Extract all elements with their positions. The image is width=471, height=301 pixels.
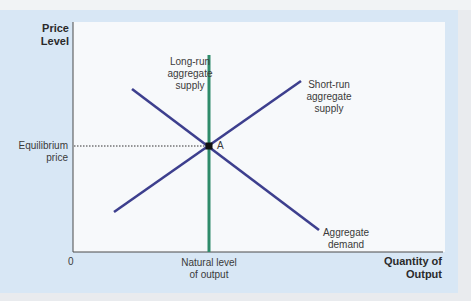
natural-output-label: Natural level of output: [174, 257, 244, 281]
equilibrium-point: [206, 143, 213, 150]
sras-label: Short-run aggregate supply: [302, 79, 356, 115]
lras-label: Long-run aggregate supply: [160, 56, 220, 92]
x-axis-title: Quantity of Output: [360, 255, 442, 281]
point-a-label: A: [217, 140, 224, 152]
ad-line: [132, 89, 319, 230]
ad-label: Aggregate demand: [316, 227, 376, 251]
y-axis-title: Price Level: [20, 22, 69, 48]
origin-label: 0: [68, 256, 74, 268]
equilibrium-price-label: Equilibrium price: [0, 140, 68, 164]
